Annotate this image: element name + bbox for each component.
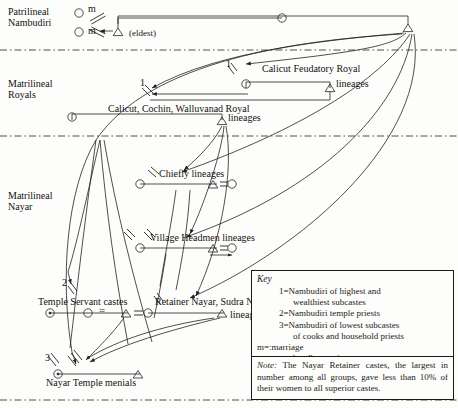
marriage-label-wife-2: m [88, 25, 96, 36]
label-nayar-temple-menials: Nayar Temple menials [46, 377, 136, 388]
note-box: Note: The Nayar Retainer castes, the lar… [251, 356, 454, 400]
person-circle-nambudiri-wife-1 [75, 9, 83, 17]
person-circle-nambudiri-wife-2 [75, 28, 83, 36]
section-label-line2: Royals [8, 89, 52, 100]
label-calicut-feudatory-royal-line2: lineages [336, 78, 369, 89]
equals-temple-servant-right [134, 311, 143, 315]
key-symbol-marriage: m=:marriage [257, 342, 448, 353]
key-entry-3-line1: 3=Nambudiri of lowest subcastes [257, 320, 448, 331]
section-label-line1: Matrilineal [8, 78, 52, 89]
person-circle-temple-servant-1-dot [49, 312, 51, 314]
key-box: Key 1=Nambudiri of highest and wealthies… [251, 270, 454, 370]
key-entry-3-line2: of cooks and household priests [257, 331, 448, 342]
section-label-matrilineal-royals: Matrilineal Royals [8, 78, 52, 100]
key-entry-2-line1: 2=Nambudiri temple priests [257, 308, 448, 319]
arrow-temple-servant-to-menials [86, 318, 124, 360]
marriage-link-wife-1 [90, 13, 106, 24]
section-label-line2: Nayar [8, 201, 52, 212]
marriage-label-wife-1: m [88, 3, 96, 14]
section-label-patrilineal-nambudiri: Patrilineal Nambudiri [8, 6, 51, 28]
key-entry-1-line2: wealthiest subcastes [257, 297, 448, 308]
arrow-nambudiri-to-calicut-feudatory [246, 33, 406, 64]
strand-left-outer [70, 140, 96, 348]
equals-sign-temple-servant: = [99, 304, 105, 316]
nambudiri-top-rail [118, 18, 282, 28]
arrow-branch-to-temple-servant [68, 272, 71, 284]
arrow-royal-to-village-headmen [190, 126, 224, 234]
sambandham-mark-chiefly [148, 167, 159, 177]
number-label-2-temple-servant: 2 [62, 277, 67, 288]
eldest-label: (eldest) [129, 28, 156, 38]
equals-village-headmen [220, 246, 228, 250]
label-calicut-cochin-walluvanad-line2: lineages [228, 112, 261, 123]
sambandham-mark-village-1 [124, 229, 135, 240]
section-label-matrilineal-nayar: Matrilineal Nayar [8, 190, 52, 212]
lineage-bar-calicut-cochin [72, 114, 222, 120]
note-label: Note: [257, 360, 277, 370]
nambudiri-eldest-to-apex-rail [118, 16, 408, 24]
note-text: The Nayar Retainer castes, the largest i… [257, 360, 448, 393]
person-triangle-nambudiri-junior [403, 24, 413, 32]
person-circle-menials-dot [57, 373, 59, 375]
section-label-line2: Nambudiri [8, 17, 51, 28]
lineage-bar-calicut-feudatory [246, 82, 330, 88]
key-entry-1-line1: 1=Nambudiri of highest and [257, 286, 448, 297]
person-circle-village-headmen-spouse [228, 244, 236, 252]
arrow-royal-to-retainer-nayar [196, 126, 228, 296]
arrow-retainer-to-menials [90, 318, 220, 362]
kinship-diagram-figure: Patrilineal Nambudiri Matrilineal Royals… [0, 0, 458, 408]
sambandham-mark-menials-2 [68, 350, 82, 366]
label-temple-servant-castes: Temple Servant castes [38, 296, 127, 307]
number-label-1-royals-right: 1 [226, 58, 231, 69]
number-label-1-royals-left: 1 [140, 77, 145, 88]
label-calicut-feudatory-royal-line1: Calicut Feudatory Royal [262, 63, 360, 74]
rail-feudatory-return [150, 92, 330, 100]
person-triangle-eldest [113, 28, 123, 36]
label-chiefly-lineages: Chiefly lineages [159, 168, 224, 179]
person-circle-chiefly-spouse [228, 180, 236, 188]
key-title: Key [257, 274, 448, 286]
number-label-3-temple-menials: 3 [45, 352, 50, 363]
section-label-line1: Patrilineal [8, 6, 51, 17]
label-village-headmen-lineages: Village Headmen lineages [150, 232, 255, 243]
section-label-line1: Matrilineal [8, 190, 52, 201]
sambandham-mark-temple-servant [68, 283, 77, 294]
